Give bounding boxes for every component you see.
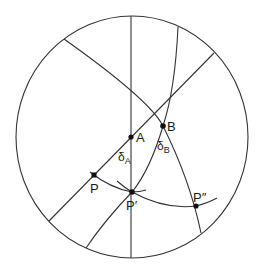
label-p: P	[90, 182, 99, 195]
point-p	[92, 173, 97, 178]
point-b	[160, 123, 166, 129]
stereonet-diagram: A B P P′ P″ δA δB	[0, 0, 261, 271]
label-b: B	[167, 120, 176, 133]
label-p-prime: P′	[126, 199, 137, 212]
delta-b-subscript: B	[164, 145, 170, 155]
point-p-prime	[129, 189, 135, 195]
label-a: A	[136, 131, 145, 144]
label-delta-a: δA	[118, 151, 131, 163]
delta-a-symbol: δ	[118, 150, 125, 164]
stereonet-drawing	[0, 0, 261, 271]
label-p-double-prime: P″	[193, 191, 206, 204]
delta-a-subscript: A	[125, 156, 131, 166]
label-delta-b: δB	[157, 140, 170, 152]
delta-b-symbol: δ	[157, 139, 164, 153]
point-a	[128, 134, 133, 139]
